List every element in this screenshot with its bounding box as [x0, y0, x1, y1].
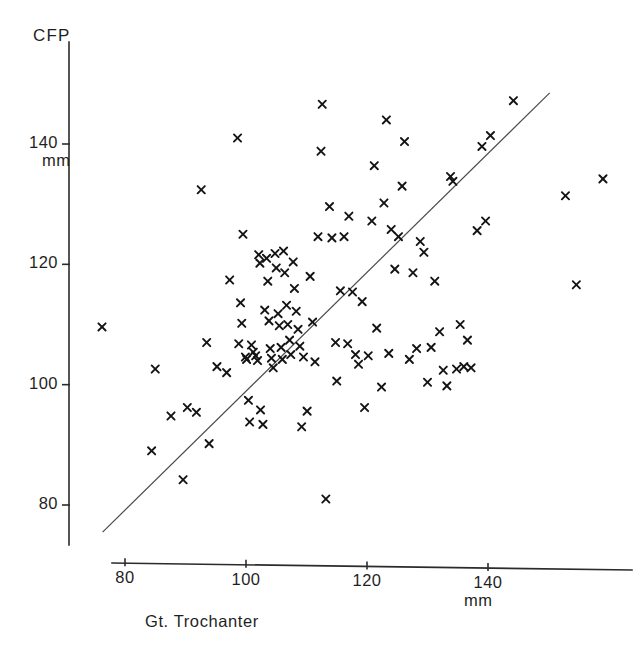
- data-point-marker: [274, 310, 281, 317]
- y-axis-title: CFP: [33, 27, 71, 45]
- data-point-marker: [424, 379, 431, 386]
- data-point-marker: [371, 162, 378, 169]
- y-tick-label-80: 80: [12, 495, 58, 512]
- data-point-marker: [440, 367, 447, 374]
- data-point-marker: [309, 318, 316, 325]
- trend-line-group: [103, 93, 550, 532]
- data-point-marker: [273, 264, 280, 271]
- y-axis-unit-label: mm: [42, 152, 71, 169]
- data-point-marker: [293, 308, 300, 315]
- data-point-marker: [277, 344, 284, 351]
- data-point-marker: [398, 183, 405, 190]
- data-point-marker: [296, 343, 303, 350]
- data-point-marker: [267, 345, 274, 352]
- x-axis-unit-label: mm: [464, 592, 493, 609]
- data-point-marker: [385, 350, 392, 357]
- scatter-plot-figure: CFP mm mm Gt. Trochanter 801001201408010…: [0, 0, 643, 654]
- data-point-marker: [482, 217, 489, 224]
- data-point-marker: [352, 351, 359, 358]
- data-point-marker: [380, 199, 387, 206]
- data-point-marker: [248, 341, 255, 348]
- data-point-marker: [203, 339, 210, 346]
- data-point-marker: [237, 299, 244, 306]
- data-point-marker: [443, 382, 450, 389]
- data-points-group: [98, 97, 606, 503]
- data-point-marker: [255, 251, 262, 258]
- data-point-marker: [291, 285, 298, 292]
- data-point-marker: [268, 355, 275, 362]
- data-point-marker: [319, 101, 326, 108]
- data-point-marker: [355, 361, 362, 368]
- data-point-marker: [322, 495, 329, 502]
- x-tick-label-140: 140: [465, 574, 511, 591]
- data-point-marker: [276, 322, 283, 329]
- data-point-marker: [333, 377, 340, 384]
- data-point-marker: [460, 363, 467, 370]
- x-tick-label-100: 100: [223, 571, 269, 588]
- data-point-marker: [453, 365, 460, 372]
- data-point-marker: [510, 97, 517, 104]
- data-point-marker: [378, 383, 385, 390]
- plot-canvas: [0, 0, 643, 654]
- data-point-marker: [98, 323, 105, 330]
- data-point-marker: [257, 406, 264, 413]
- y-tick-label-140: 140: [12, 134, 58, 151]
- data-point-marker: [307, 273, 314, 280]
- data-point-marker: [420, 249, 427, 256]
- data-point-marker: [261, 306, 268, 313]
- data-point-marker: [368, 217, 375, 224]
- data-point-marker: [474, 227, 481, 234]
- data-point-marker: [245, 397, 252, 404]
- x-tick-label-80: 80: [102, 569, 148, 586]
- data-point-marker: [317, 148, 324, 155]
- x-tick-label-120: 120: [344, 572, 390, 589]
- data-point-marker: [300, 353, 307, 360]
- data-point-marker: [238, 320, 245, 327]
- data-point-marker: [562, 192, 569, 199]
- data-point-marker: [344, 340, 351, 347]
- data-point-marker: [298, 423, 305, 430]
- data-point-marker: [340, 233, 347, 240]
- data-point-marker: [391, 266, 398, 273]
- data-point-marker: [294, 326, 301, 333]
- data-point-marker: [286, 337, 293, 344]
- data-point-marker: [417, 238, 424, 245]
- data-point-marker: [287, 351, 294, 358]
- data-point-marker: [234, 134, 241, 141]
- data-point-marker: [428, 344, 435, 351]
- y-tick-label-100: 100: [12, 375, 58, 392]
- ticks-group: [62, 144, 488, 571]
- data-point-marker: [152, 365, 159, 372]
- data-point-marker: [167, 412, 174, 419]
- data-point-marker: [457, 321, 464, 328]
- data-point-marker: [198, 186, 205, 193]
- data-point-marker: [337, 287, 344, 294]
- data-point-marker: [467, 364, 474, 371]
- data-point-marker: [223, 369, 230, 376]
- data-point-marker: [213, 363, 220, 370]
- data-point-marker: [304, 408, 311, 415]
- data-point-marker: [193, 409, 200, 416]
- axes-group: [69, 42, 632, 570]
- y-tick-label-120: 120: [12, 254, 58, 271]
- data-point-marker: [345, 213, 352, 220]
- data-point-marker: [179, 476, 186, 483]
- data-point-marker: [365, 352, 372, 359]
- data-point-marker: [431, 278, 438, 285]
- data-point-marker: [290, 258, 297, 265]
- data-point-marker: [599, 175, 606, 182]
- data-point-marker: [256, 260, 263, 267]
- data-point-marker: [184, 404, 191, 411]
- data-point-marker: [235, 340, 242, 347]
- data-point-marker: [436, 328, 443, 335]
- data-point-marker: [281, 269, 288, 276]
- data-point-marker: [284, 321, 291, 328]
- data-point-marker: [264, 278, 271, 285]
- data-point-marker: [487, 132, 494, 139]
- data-point-marker: [205, 440, 212, 447]
- data-point-marker: [283, 302, 290, 309]
- data-point-marker: [383, 116, 390, 123]
- data-point-marker: [148, 447, 155, 454]
- data-point-marker: [279, 356, 286, 363]
- data-point-marker: [413, 345, 420, 352]
